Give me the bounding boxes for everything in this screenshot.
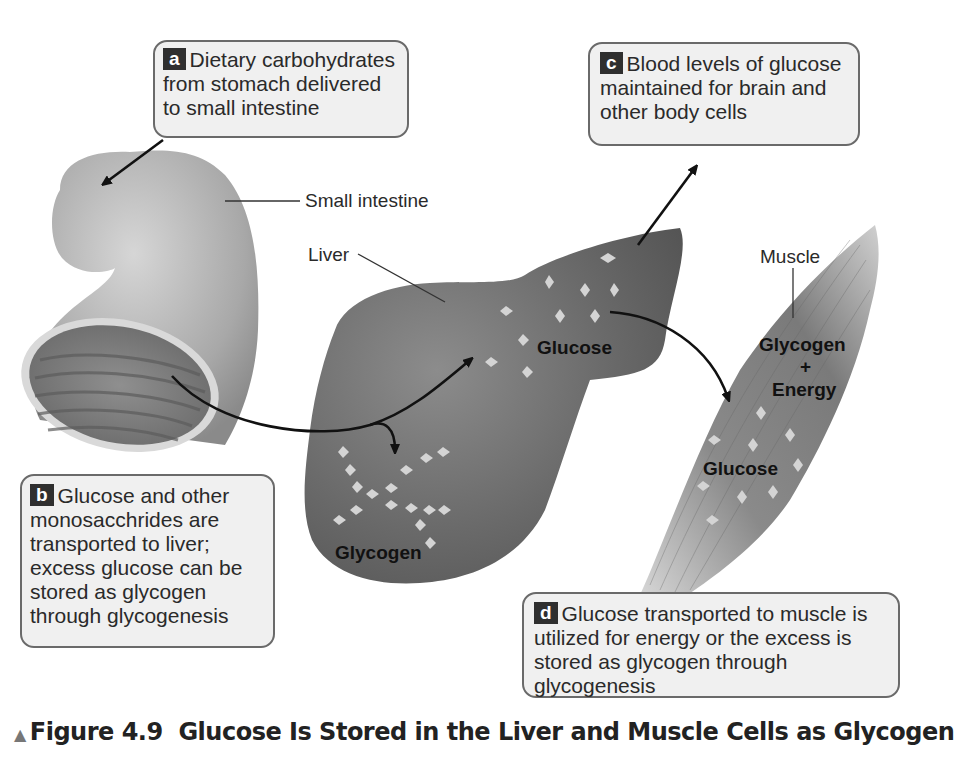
liver-label-glycogen: Glycogen (335, 542, 422, 564)
callout-b-line-5: stored as glycogen (30, 580, 206, 603)
callout-b-line-6: through glycogenesis (30, 604, 228, 627)
callout-b-line-1: Glucose and other (58, 484, 230, 507)
callout-b-line-4: excess glucose can be (30, 556, 242, 579)
callout-b-line-2: monosacchrides are (30, 508, 219, 531)
liver-label-glucose: Glucose (537, 337, 612, 359)
label-liver: Liver (308, 244, 349, 266)
callout-a: aDietary carbohydrates from stomach deli… (153, 40, 409, 138)
callout-badge-d: d (534, 602, 558, 624)
muscle-label-glycogen: Glycogen (759, 334, 846, 356)
callout-a-line-3: to small intestine (163, 96, 319, 119)
callout-a-line-1: Dietary carbohydrates (190, 48, 395, 71)
callout-badge-c: c (600, 52, 623, 74)
callout-a-line-2: from stomach delivered (163, 72, 381, 95)
callout-b-line-3: transported to liver; (30, 532, 210, 555)
caption-number: Figure 4.9 (30, 718, 163, 746)
muscle-label-energy: Energy (772, 379, 836, 401)
callout-badge-a: a (163, 48, 186, 70)
callout-d-line-2: utilized for energy or the excess is (534, 626, 851, 649)
callout-c: cBlood levels of glucose maintained for … (588, 42, 860, 146)
liver-illustration (305, 228, 683, 583)
callout-c-line-2: maintained for brain and (600, 76, 826, 99)
small-intestine-illustration (9, 150, 259, 469)
muscle-label-glucose: Glucose (703, 458, 778, 480)
caption-triangle-icon: ▲ (14, 725, 26, 744)
callout-b: bGlucose and other monosacchrides are tr… (20, 474, 275, 648)
callout-badge-b: b (30, 484, 54, 506)
figure-caption: ▲Figure 4.9 Glucose Is Stored in the Liv… (14, 718, 954, 746)
caption-title: Glucose Is Stored in the Liver and Muscl… (178, 718, 954, 746)
callout-d: dGlucose transported to muscle is utiliz… (522, 592, 900, 698)
callout-c-line-3: other body cells (600, 100, 747, 123)
label-small-intestine: Small intestine (305, 190, 429, 212)
callout-d-line-3: stored as glycogen through (534, 650, 787, 673)
callout-d-line-1: Glucose transported to muscle is (562, 602, 868, 625)
callout-d-line-4: glycogenesis (534, 674, 655, 697)
muscle-label-plus: + (800, 356, 811, 378)
callout-c-line-1: Blood levels of glucose (627, 52, 842, 75)
label-muscle: Muscle (760, 246, 820, 268)
